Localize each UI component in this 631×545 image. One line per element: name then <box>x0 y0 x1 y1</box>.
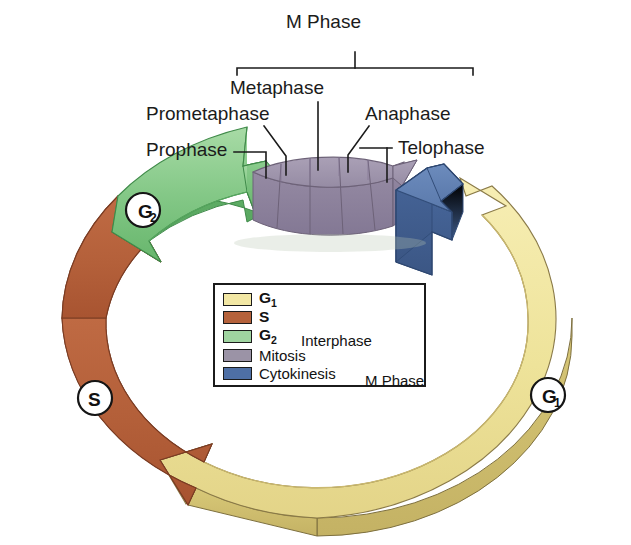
prometaphase-label: Prometaphase <box>146 104 270 123</box>
figure-canvas: G 2 S G 1 M Phase Metaphase Prometaphase… <box>0 0 631 545</box>
svg-text:S: S <box>88 389 101 410</box>
legend-swatch-mitosis <box>223 349 252 362</box>
legend-swatch-cytokinesis <box>223 367 252 380</box>
m-phase-label: M Phase <box>286 12 361 31</box>
legend-label-g2: G2 <box>259 327 277 346</box>
svg-text:1: 1 <box>554 396 561 410</box>
legend-swatch-g2 <box>223 330 252 343</box>
segment-mitosis <box>253 157 419 235</box>
anaphase-label: Anaphase <box>365 104 451 123</box>
legend-item-cytokinesis: Cytokinesis <box>223 364 336 383</box>
prophase-label: Prophase <box>146 140 227 159</box>
legend-label-mitosis: Mitosis <box>259 348 306 363</box>
legend-group-mphase: M Phase <box>365 373 424 388</box>
legend-item-s: S <box>223 309 336 328</box>
legend-group-interphase: Interphase <box>301 333 372 348</box>
ring-badge-s: S <box>78 381 112 415</box>
legend-swatch-s <box>223 311 252 324</box>
legend-label-cytokinesis: Cytokinesis <box>259 366 336 381</box>
legend-label-g1: G1 <box>259 290 277 309</box>
legend-swatch-g1 <box>223 293 252 306</box>
legend: G1 S G2 Mitosis Cytokinesis Interphase M… <box>213 283 426 387</box>
segment-cytokinesis <box>396 164 463 275</box>
telophase-label: Telophase <box>398 138 485 157</box>
ring-badge-g2: G 2 <box>126 193 160 227</box>
legend-label-s: S <box>259 309 269 328</box>
svg-text:2: 2 <box>150 211 157 225</box>
m-phase-bracket <box>237 68 473 75</box>
ring-badge-g1: G 1 <box>531 378 565 412</box>
metaphase-label: Metaphase <box>230 78 324 97</box>
legend-item-g1: G1 <box>223 290 336 309</box>
